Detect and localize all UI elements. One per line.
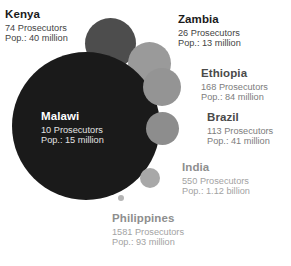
label-kenya-prosecutors: 74 Prosecutors <box>5 23 68 34</box>
label-kenya: Kenya 74 Prosecutors Pop.: 40 million <box>5 8 68 44</box>
label-india: India 550 Prosecutors Pop.: 1.12 billion <box>182 161 250 197</box>
label-ethiopia-population: Pop.: 84 million <box>201 92 268 103</box>
label-malawi-country: Malawi <box>41 110 104 124</box>
bubble-india[interactable] <box>140 168 160 188</box>
label-philippines: Philippines 1581 Prosecutors Pop.: 93 mi… <box>112 212 184 248</box>
label-philippines-country: Philippines <box>112 212 184 226</box>
bubble-chart: Kenya 74 Prosecutors Pop.: 40 million Za… <box>0 0 291 266</box>
bubble-philippines[interactable] <box>118 195 124 201</box>
label-ethiopia-country: Ethiopia <box>201 67 268 81</box>
label-zambia: Zambia 26 Prosecutors Pop.: 13 million <box>178 13 241 49</box>
label-brazil: Brazil 113 Prosecutors Pop.: 41 million <box>207 111 273 147</box>
label-kenya-country: Kenya <box>5 8 68 22</box>
label-india-prosecutors: 550 Prosecutors <box>182 176 250 187</box>
label-brazil-prosecutors: 113 Prosecutors <box>207 126 273 137</box>
label-zambia-prosecutors: 26 Prosecutors <box>178 28 241 39</box>
label-malawi-population: Pop.: 15 million <box>41 135 104 146</box>
label-ethiopia-prosecutors: 168 Prosecutors <box>201 82 268 93</box>
label-india-population: Pop.: 1.12 billion <box>182 186 250 197</box>
label-philippines-prosecutors: 1581 Prosecutors <box>112 227 184 238</box>
label-malawi: Malawi 10 Prosecutors Pop.: 15 million <box>41 110 104 146</box>
label-zambia-country: Zambia <box>178 13 241 27</box>
label-zambia-population: Pop.: 13 million <box>178 38 241 49</box>
label-ethiopia: Ethiopia 168 Prosecutors Pop.: 84 millio… <box>201 67 268 103</box>
bubble-ethiopia[interactable] <box>143 68 181 106</box>
bubble-brazil[interactable] <box>146 112 179 145</box>
label-philippines-population: Pop.: 93 million <box>112 237 184 248</box>
label-malawi-prosecutors: 10 Prosecutors <box>41 125 104 136</box>
label-india-country: India <box>182 161 250 175</box>
label-brazil-population: Pop.: 41 million <box>207 136 273 147</box>
label-kenya-population: Pop.: 40 million <box>5 33 68 44</box>
label-brazil-country: Brazil <box>207 111 273 125</box>
